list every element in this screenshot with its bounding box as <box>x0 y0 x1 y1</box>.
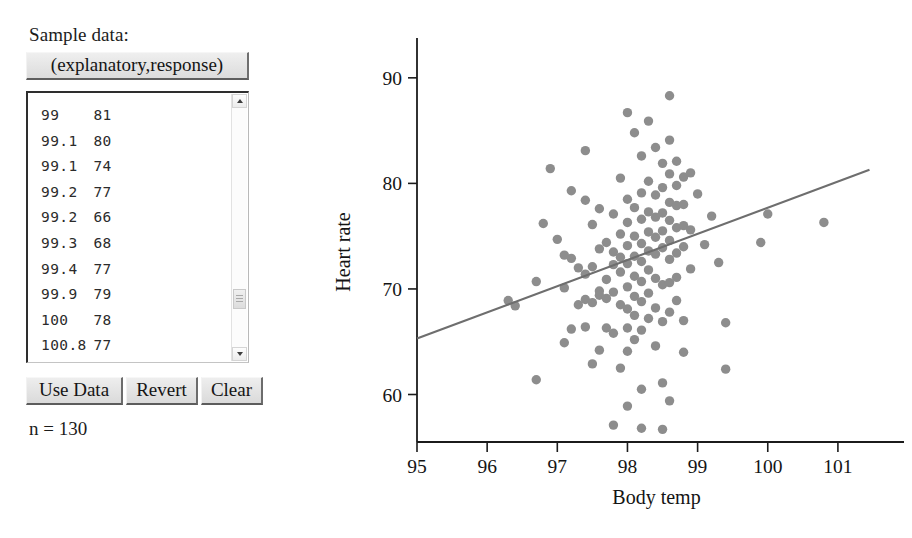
data-point <box>623 401 632 410</box>
data-point <box>686 168 695 177</box>
data-point <box>672 157 681 166</box>
data-row-explanatory: 100.8 <box>41 333 93 359</box>
sample-data-label: Sample data: <box>29 24 266 46</box>
data-point <box>700 240 709 249</box>
data-row-explanatory: 99.9 <box>41 282 93 308</box>
data-point <box>588 298 597 307</box>
scroll-up-arrow-icon[interactable] <box>232 94 247 108</box>
data-point <box>546 164 555 173</box>
data-row[interactable]: 10078 <box>41 308 231 334</box>
data-point <box>658 425 667 434</box>
data-row[interactable]: 99.266 <box>41 205 231 231</box>
y-tick-label: 90 <box>383 68 403 89</box>
scroll-down-arrow-icon[interactable] <box>232 347 247 361</box>
data-point <box>644 177 653 186</box>
data-row[interactable]: 100.877 <box>41 333 231 359</box>
data-row-response: 77 <box>93 333 111 359</box>
data-point <box>574 263 583 272</box>
data-row[interactable]: 99.477 <box>41 257 231 283</box>
data-point <box>658 378 667 387</box>
data-point <box>651 274 660 283</box>
data-point <box>644 265 653 274</box>
data-point <box>637 215 646 224</box>
data-point <box>623 241 632 250</box>
data-point <box>630 335 639 344</box>
data-point <box>665 91 674 100</box>
revert-button[interactable]: Revert <box>126 377 198 405</box>
y-axis-title: Heart rate <box>332 212 354 292</box>
data-point <box>609 420 618 429</box>
data-point <box>819 218 828 227</box>
data-point <box>532 277 541 286</box>
data-point <box>539 219 548 228</box>
data-row-explanatory: 99.2 <box>41 205 93 231</box>
data-row[interactable]: 99.368 <box>41 231 231 257</box>
data-point <box>651 341 660 350</box>
data-point <box>623 218 632 227</box>
data-point <box>637 385 646 394</box>
x-tick-label: 95 <box>407 456 427 477</box>
data-point <box>588 262 597 271</box>
data-point <box>581 146 590 155</box>
data-point <box>637 424 646 433</box>
data-row-explanatory: 99.2 <box>41 180 93 206</box>
data-point <box>672 296 681 305</box>
data-point <box>602 238 611 247</box>
data-point <box>679 242 688 251</box>
data-point <box>714 258 723 267</box>
data-point <box>616 267 625 276</box>
data-listbox[interactable]: 998199.18099.17499.27799.26699.36899.477… <box>26 91 249 363</box>
x-axis-title: Body temp <box>612 486 700 509</box>
data-point <box>651 143 660 152</box>
data-row-explanatory: 99.3 <box>41 231 93 257</box>
data-point <box>567 186 576 195</box>
data-point <box>665 135 674 144</box>
data-point <box>623 347 632 356</box>
data-point <box>623 304 632 313</box>
data-point <box>588 220 597 229</box>
clear-button[interactable]: Clear <box>201 377 263 405</box>
data-row[interactable]: 99.174 <box>41 154 231 180</box>
data-point <box>609 287 618 296</box>
y-tick-label: 70 <box>383 279 403 300</box>
data-point <box>630 231 639 240</box>
scrollbar-thumb[interactable] <box>233 289 246 309</box>
data-point <box>651 190 660 199</box>
data-point <box>637 325 646 334</box>
use-data-button[interactable]: Use Data <box>26 377 123 405</box>
data-row-response: 80 <box>93 129 111 155</box>
data-point <box>658 208 667 217</box>
x-tick-label: 98 <box>618 456 638 477</box>
data-point <box>721 318 730 327</box>
data-point <box>560 338 569 347</box>
data-point <box>651 303 660 312</box>
x-tick-label: 101 <box>823 456 852 477</box>
sample-size-label: n = 130 <box>29 418 266 440</box>
data-point <box>532 375 541 384</box>
data-point <box>679 200 688 209</box>
y-tick-label: 80 <box>383 173 403 194</box>
data-row[interactable]: 99.979 <box>41 282 231 308</box>
scrollbar-track[interactable] <box>232 108 247 347</box>
data-point <box>756 238 765 247</box>
data-row[interactable]: 9981 <box>41 103 231 129</box>
data-row[interactable]: 99.180 <box>41 129 231 155</box>
data-point <box>644 314 653 323</box>
listbox-scrollbar[interactable] <box>231 94 247 361</box>
data-point <box>616 173 625 182</box>
data-row-response: 77 <box>93 257 111 283</box>
data-point <box>658 183 667 192</box>
data-point <box>693 189 702 198</box>
data-point <box>658 226 667 235</box>
data-row[interactable]: 99.277 <box>41 180 231 206</box>
data-point <box>595 244 604 253</box>
data-point <box>602 275 611 284</box>
data-point <box>651 233 660 242</box>
data-rows: 998199.18099.17499.27799.26699.36899.477… <box>28 93 231 362</box>
data-row-response: 81 <box>93 103 111 129</box>
data-point <box>581 196 590 205</box>
x-tick-label: 100 <box>753 456 782 477</box>
x-tick-label: 96 <box>477 456 497 477</box>
explanatory-response-header-button[interactable]: (explanatory,response) <box>26 52 249 80</box>
data-point <box>658 159 667 168</box>
